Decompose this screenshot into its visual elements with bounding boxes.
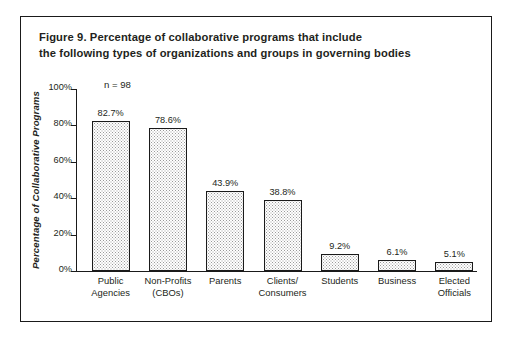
x-axis-category-label-line: (CBOs) — [144, 287, 191, 299]
bar-value-label: 43.9% — [212, 178, 238, 188]
bar[interactable] — [435, 262, 473, 271]
figure-title-line-1: Figure 9. Percentage of collaborative pr… — [39, 30, 459, 46]
bar-group: 38.8%Clients/Consumers — [264, 89, 302, 271]
x-axis-category-label-line: Students — [321, 275, 358, 287]
y-tick-label: 20% — [54, 228, 72, 238]
bar-group: 6.1%Business — [378, 89, 416, 271]
x-axis-line — [76, 271, 477, 272]
bar-value-label: 6.1% — [387, 247, 408, 257]
x-axis-category-label: Students — [321, 275, 358, 287]
x-axis-category-label: PublicAgencies — [91, 275, 130, 300]
x-axis-category-label: Non-Profits(CBOs) — [144, 275, 191, 300]
x-axis-category-label-line: Parents — [209, 275, 241, 287]
x-axis-category-label: Clients/Consumers — [259, 275, 307, 300]
x-axis-category-label-line: Officials — [438, 287, 471, 299]
bar[interactable] — [206, 191, 244, 271]
bar-group: 5.1%ElectedOfficials — [435, 89, 473, 271]
bar[interactable] — [321, 254, 359, 271]
bar-value-label: 82.7% — [98, 108, 124, 118]
bar-group: 43.9%Parents — [206, 89, 244, 271]
y-axis-line — [76, 89, 77, 271]
y-tick-label: 40% — [54, 191, 72, 201]
y-tick-label: 0% — [59, 264, 72, 274]
bar[interactable] — [149, 128, 187, 271]
x-axis-category-label-line: Public — [91, 275, 130, 287]
bar[interactable] — [378, 260, 416, 271]
bar-value-label: 9.2% — [329, 241, 350, 251]
x-axis-category-label: ElectedOfficials — [438, 275, 471, 300]
bar-group: 78.6%Non-Profits(CBOs) — [149, 89, 187, 271]
y-tick-label: 60% — [54, 155, 72, 165]
bar-value-label: 78.6% — [155, 115, 181, 125]
x-axis-category-label: Business — [378, 275, 416, 287]
bar-value-label: 5.1% — [444, 249, 465, 259]
y-tick-label: 80% — [54, 118, 72, 128]
bar[interactable] — [92, 121, 130, 272]
bar-chart-plot-area: Percentage of Collaborative Programs n =… — [76, 89, 477, 271]
y-axis-title: Percentage of Collaborative Programs — [30, 89, 44, 271]
x-axis-category-label-line: Business — [378, 275, 416, 287]
x-axis-category-label: Parents — [209, 275, 241, 287]
bar-group: 82.7%PublicAgencies — [92, 89, 130, 271]
bar[interactable] — [264, 200, 302, 271]
x-axis-category-label-line: Elected — [438, 275, 471, 287]
x-axis-category-label-line: Consumers — [259, 287, 307, 299]
y-tick-label: 100% — [49, 82, 73, 92]
figure-title: Figure 9. Percentage of collaborative pr… — [39, 30, 459, 62]
figure-title-line-2: the following types of organizations and… — [39, 46, 459, 62]
x-axis-category-label-line: Non-Profits — [144, 275, 191, 287]
bar-value-label: 38.8% — [269, 187, 295, 197]
bar-group: 9.2%Students — [321, 89, 359, 271]
x-axis-category-label-line: Clients/ — [259, 275, 307, 287]
x-axis-category-label-line: Agencies — [91, 287, 130, 299]
figure-frame: Figure 9. Percentage of collaborative pr… — [20, 16, 492, 322]
